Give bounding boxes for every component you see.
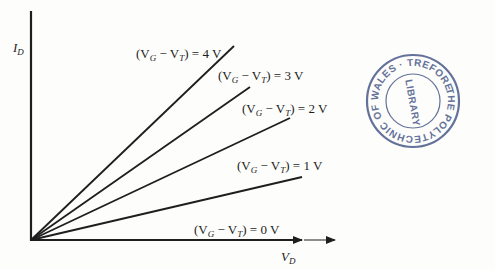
diagram-canvas: ID VD (VG − VT) = 4 V (VG − VT) = 3 V (V…: [0, 0, 495, 269]
label-2v: (VG − VT) = 2 V: [242, 101, 328, 118]
stamp-center-text: LIBRARY: [403, 78, 422, 127]
label-1v: (VG − VT) = 1 V: [237, 158, 323, 175]
x-axis-label: VD: [281, 249, 296, 266]
library-stamp: THE POLYTECHNIC OF WALES · TREFOREST · L…: [356, 45, 469, 158]
label-3v: (VG − VT) = 3 V: [218, 68, 304, 85]
mosfet-characteristic-diagram: ID VD (VG − VT) = 4 V (VG − VT) = 3 V (V…: [0, 0, 495, 269]
label-4v: (VG − VT) = 4 V: [136, 46, 222, 63]
label-0v: (VG − VT) = 0 V: [194, 222, 280, 239]
curve-4v: [31, 46, 234, 240]
curve-3v: [31, 87, 250, 240]
y-axis-label: ID: [12, 40, 24, 57]
